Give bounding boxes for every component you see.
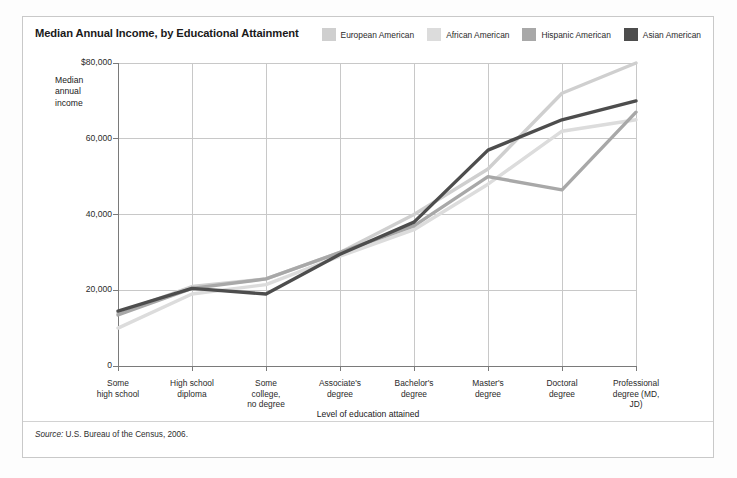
source-note: Source: U.S. Bureau of the Census, 2006.: [35, 430, 188, 439]
plot-area: $80,00060,00040,00020,0000Somehigh schoo…: [23, 17, 715, 459]
series-line-african-american: [118, 120, 636, 328]
y-axis-tick-label: 40,000: [54, 209, 112, 219]
y-axis-tick-label: $80,000: [54, 57, 112, 67]
x-axis-tick-label-line: degree (MD,: [589, 389, 683, 400]
chart-page: Median Annual Income, by Educational Att…: [0, 0, 737, 478]
y-axis-tick-label: 0: [54, 360, 112, 370]
source-divider: [23, 421, 713, 422]
x-axis-tick-label-line: Professional: [589, 378, 683, 389]
x-axis-tick-label: Professionaldegree (MD,JD): [589, 378, 683, 410]
x-axis-caption: Level of education attained: [23, 409, 713, 419]
y-axis-tick-label: 20,000: [54, 284, 112, 294]
source-text: U.S. Bureau of the Census, 2006.: [63, 430, 188, 439]
y-axis-tick-label: 60,000: [54, 133, 112, 143]
source-label: Source:: [35, 430, 63, 439]
chart-card: Median Annual Income, by Educational Att…: [22, 16, 714, 458]
